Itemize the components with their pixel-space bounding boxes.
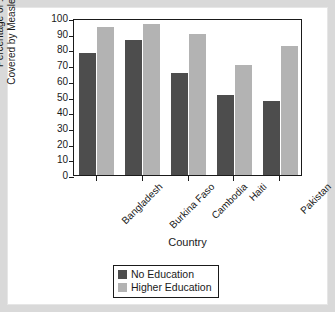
bar bbox=[97, 27, 114, 175]
legend-item: Higher Education bbox=[118, 281, 212, 294]
y-axis-tick-mark bbox=[69, 20, 74, 21]
bar bbox=[281, 46, 298, 175]
chart-legend: No EducationHigher Education bbox=[113, 265, 219, 298]
legend-item: No Education bbox=[118, 268, 212, 281]
y-axis-tick-mark bbox=[69, 146, 74, 147]
y-axis-tick-label: 100 bbox=[51, 14, 68, 24]
bar bbox=[79, 53, 96, 175]
y-axis-tick-mark bbox=[69, 36, 74, 37]
y-axis-tick-label: 50 bbox=[57, 93, 68, 103]
bar bbox=[143, 24, 160, 175]
legend-swatch-icon bbox=[118, 270, 127, 279]
x-axis-tick-label: Haiti bbox=[247, 181, 269, 203]
y-axis-tick-label: 0 bbox=[62, 171, 68, 181]
y-axis-tick-label: 70 bbox=[57, 61, 68, 71]
y-axis-tick-marks bbox=[69, 20, 74, 177]
bar bbox=[263, 101, 280, 175]
x-axis-tick-label: Bangladesh bbox=[119, 181, 164, 226]
y-axis-tick-mark bbox=[69, 83, 74, 84]
y-axis-tick-mark bbox=[69, 130, 74, 131]
y-axis-tick-label: 30 bbox=[57, 124, 68, 134]
y-axis-title: Percentage of 1-Year-Olds Covered by Mea… bbox=[0, 0, 18, 98]
y-axis-title-line-2: Covered by Measles Immunization bbox=[6, 0, 18, 98]
y-axis-tick-label: 40 bbox=[57, 108, 68, 118]
legend-item-label: Higher Education bbox=[131, 281, 212, 294]
x-axis-tick-label: Burkina Faso bbox=[167, 181, 216, 230]
y-axis-tick-mark bbox=[69, 99, 74, 100]
bar bbox=[217, 95, 234, 175]
x-axis-tick-labels: BangladeshBurkina FasoCambodiaHaitiPakis… bbox=[73, 181, 302, 231]
plot-area bbox=[73, 19, 302, 176]
y-axis-tick-mark bbox=[69, 114, 74, 115]
y-axis-tick-label: 20 bbox=[57, 140, 68, 150]
y-axis-tick-mark bbox=[69, 51, 74, 52]
y-axis-tick-mark bbox=[69, 161, 74, 162]
y-axis-tick-labels: 0102030405060708090100 bbox=[44, 19, 68, 176]
bar bbox=[235, 65, 252, 175]
y-axis-tick-mark bbox=[69, 67, 74, 68]
chart-figure: Percentage of 1-Year-Olds Covered by Mea… bbox=[0, 0, 335, 312]
y-axis-tick-label: 90 bbox=[57, 30, 68, 40]
y-axis-tick-label: 10 bbox=[57, 155, 68, 165]
legend-item-label: No Education bbox=[131, 268, 194, 281]
legend-swatch-icon bbox=[118, 283, 127, 292]
y-axis-tick-label: 60 bbox=[57, 77, 68, 87]
x-axis-title: Country bbox=[73, 236, 302, 248]
bar bbox=[171, 73, 188, 175]
bar bbox=[125, 40, 142, 175]
bar bbox=[189, 34, 206, 175]
y-axis-tick-label: 80 bbox=[57, 45, 68, 55]
